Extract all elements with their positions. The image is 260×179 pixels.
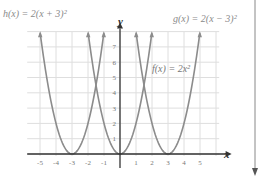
y-tick-label: 7 <box>113 43 117 51</box>
coordinate-plot: -5-4-3-2-1123451234567 <box>0 0 260 179</box>
x-axis-label: x <box>224 148 230 160</box>
x-tick-label: 2 <box>150 159 154 167</box>
y-axis-label: y <box>118 15 123 27</box>
scroll-down-arrow-icon[interactable] <box>252 168 258 176</box>
axes <box>27 23 231 168</box>
x-tick-label: -3 <box>69 159 75 167</box>
x-tick-label: -1 <box>101 159 107 167</box>
y-tick-label: 1 <box>113 135 117 143</box>
y-tick-label: 2 <box>113 120 117 128</box>
x-tick-label: -4 <box>53 159 59 167</box>
y-tick-label: 5 <box>113 74 117 82</box>
scrollbar[interactable] <box>252 0 258 179</box>
x-tick-label: 4 <box>182 159 186 167</box>
label-f-of-x: f(x) = 2x² <box>152 63 190 74</box>
label-h-of-x: h(x) = 2(x + 3)² <box>3 8 67 19</box>
y-tick-label: 4 <box>113 89 117 97</box>
y-tick-label: 3 <box>113 105 117 113</box>
label-g-of-x: g(x) = 2(x − 3)² <box>173 13 237 24</box>
x-tick-label: 3 <box>166 159 170 167</box>
x-tick-label: -2 <box>85 159 91 167</box>
x-tick-label: 5 <box>198 159 202 167</box>
x-tick-label: 1 <box>134 159 138 167</box>
y-tick-label: 6 <box>113 59 117 67</box>
x-tick-label: -5 <box>37 159 43 167</box>
